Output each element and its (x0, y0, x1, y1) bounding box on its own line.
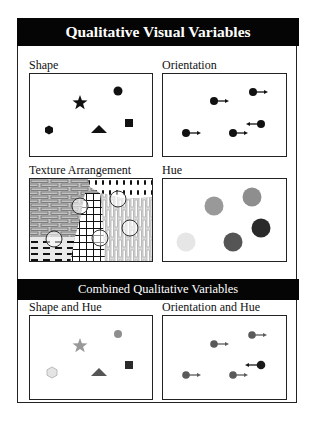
hue-panel (162, 178, 287, 262)
triangle-icon (91, 368, 107, 376)
arrow-right-icon (210, 97, 229, 105)
texture-panel (29, 178, 153, 262)
texture-circle (92, 230, 108, 246)
shape-hue-panel (29, 315, 153, 400)
texture-label: Texture Arrangement (29, 164, 131, 177)
combined-title: Combined Qualitative Variables (17, 279, 299, 300)
shape-symbols (30, 74, 153, 157)
arrow-left-icon (246, 120, 265, 128)
circle-icon (114, 330, 122, 338)
star-icon (73, 95, 88, 109)
shape-label: Shape (29, 59, 58, 72)
orientation-label: Orientation (162, 59, 217, 72)
texture-circle (122, 220, 138, 236)
hue-circle (177, 233, 196, 252)
shape-hue-symbols (30, 316, 153, 400)
hexagon-icon (47, 367, 57, 378)
main-title: Qualitative Visual Variables (17, 18, 299, 46)
hue-circles (163, 179, 287, 262)
triangle-icon (91, 125, 107, 133)
arrow-right-icon (182, 371, 201, 379)
shape-panel (29, 73, 153, 157)
hue-label: Hue (162, 164, 182, 177)
square-icon (125, 361, 133, 369)
orientation-panel (162, 73, 287, 157)
hexagon-icon (45, 126, 53, 135)
orientation-hue-label: Orientation and Hue (162, 301, 260, 314)
arrow-right-icon (248, 331, 267, 339)
hue-circle (224, 233, 243, 252)
texture-pattern (30, 179, 153, 262)
hue-circle (205, 197, 224, 216)
square-icon (125, 119, 133, 127)
arrow-left-icon (245, 361, 265, 370)
hue-circle (243, 188, 262, 207)
arrow-right-icon (182, 129, 201, 137)
arrow-right-icon (249, 88, 268, 96)
orientation-hue-panel (162, 315, 287, 400)
star-icon (73, 338, 88, 352)
shape-hue-label: Shape and Hue (29, 301, 102, 314)
arrow-right-icon (229, 371, 248, 379)
arrow-right-icon (210, 340, 229, 348)
orientation-symbols (163, 74, 287, 157)
orientation-hue-symbols (163, 316, 287, 400)
texture-circle (110, 191, 126, 207)
arrow-right-icon (229, 129, 248, 137)
circle-icon (114, 87, 123, 96)
hue-circle (252, 219, 271, 238)
texture-circle (72, 198, 88, 214)
texture-circle (46, 231, 62, 247)
